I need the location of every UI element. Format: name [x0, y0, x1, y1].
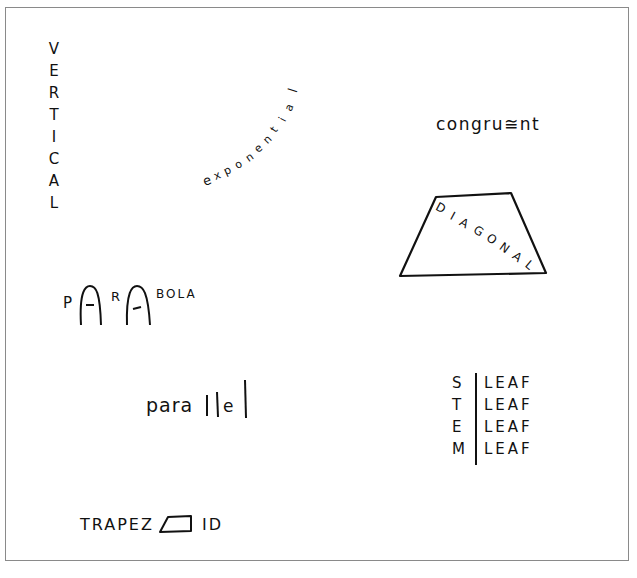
stem-cell: T — [452, 396, 474, 414]
stem-cell: S — [452, 374, 474, 392]
stem-cell: E — [452, 418, 474, 436]
leaf-cell: LEAF — [474, 374, 533, 392]
stem-leaf-row: T LEAF — [452, 394, 533, 416]
stem-cell: M — [452, 440, 474, 458]
stem-leaf-row: S LEAF — [452, 372, 533, 394]
stem-leaf-row: E LEAF — [452, 416, 533, 438]
parallel-e: e — [223, 398, 235, 415]
leaf-cell: LEAF — [474, 418, 533, 436]
word-trapezoid: TRAPEZ ID — [80, 513, 223, 535]
parallel-lines-icon — [0, 0, 637, 578]
leaf-cell: LEAF — [474, 440, 533, 458]
stem-leaf-row: M LEAF — [452, 438, 533, 460]
trapezoid-shape-icon — [158, 513, 196, 535]
trapezoid-prefix: TRAPEZ — [80, 515, 154, 534]
stem-and-leaf-table: S LEAF T LEAF E LEAF M LEAF — [452, 372, 533, 460]
trapezoid-suffix: ID — [202, 515, 223, 534]
leaf-cell: LEAF — [474, 396, 533, 414]
stem-leaf-divider — [475, 373, 477, 465]
